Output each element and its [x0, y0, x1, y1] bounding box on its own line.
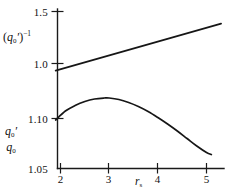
- y-axis-label-lower-denominator-subscript: 0: [12, 147, 16, 155]
- chart-canvas: 1.5 1.0 1.10 1.05 2 3 4 5: [0, 0, 225, 193]
- y-tick-label-1.05: 1.05: [28, 163, 48, 175]
- y-tick-label-1.5: 1.5: [34, 6, 49, 18]
- x-tick-label-3: 3: [106, 173, 112, 185]
- x-tick-label-4: 4: [155, 173, 161, 185]
- x-tick-label-5: 5: [204, 173, 210, 185]
- figure-container: 1.5 1.0 1.10 1.05 2 3 4 5 (q0′)−1 q0′ q0…: [0, 0, 225, 193]
- y-axis-label-lower: q0′ q0: [5, 124, 17, 156]
- x-tick-label-2: 2: [58, 173, 64, 185]
- y-axis-label-upper: (q0′)−1: [3, 30, 31, 45]
- y-axis-label-upper-exponent: −1: [23, 29, 31, 38]
- y-tick-label-1.10: 1.10: [28, 113, 48, 125]
- y-axis-label-lower-numerator-prime: ′: [15, 124, 18, 138]
- y-axis-label-lower-numerator: q0′: [5, 124, 17, 140]
- series-line-q0-inverse: [56, 24, 221, 71]
- x-axis-label-subscript: s: [139, 181, 142, 189]
- series-curve-q0-ratio: [56, 98, 212, 155]
- y-axis-label-lower-denominator: q0: [5, 140, 17, 156]
- y-tick-label-1.0: 1.0: [34, 58, 49, 70]
- x-axis-label: rs: [135, 176, 142, 189]
